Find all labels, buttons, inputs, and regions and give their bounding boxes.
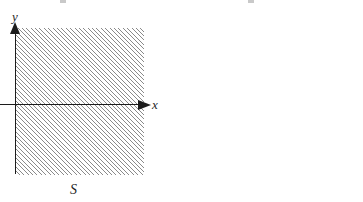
arrow-right-icon [138,100,151,110]
hatched-region-s [15,28,144,175]
left-panel-caption: S [70,183,77,197]
left-panel-x-axis [0,104,144,106]
figure-canvas: y x S y x 1 f(S) [0,0,363,202]
panel-set-s: y x S [0,0,190,202]
left-panel-x-axis-label: x [152,98,158,111]
panel-image-fs: y x 1 f(S) [190,0,363,202]
left-panel-y-axis-label: y [12,10,18,23]
left-panel-y-axis [15,30,17,174]
